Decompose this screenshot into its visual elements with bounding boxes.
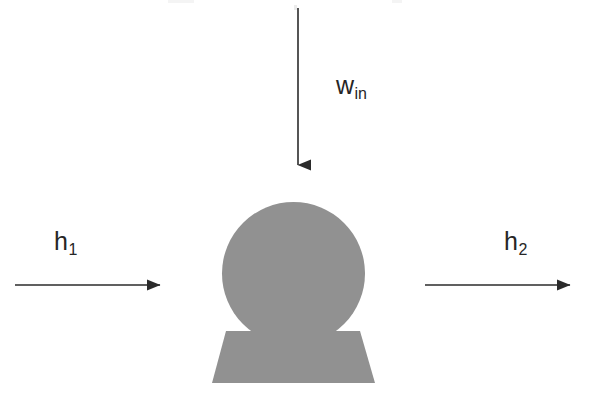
- work-input-label-subscript: in: [355, 85, 367, 102]
- compressor-circle: [222, 202, 365, 345]
- outlet-enthalpy-label-base: h: [504, 227, 518, 255]
- diagram-graphics: [0, 0, 595, 405]
- outlet-enthalpy-label: h2: [504, 229, 527, 254]
- outlet-enthalpy-label-subscript: 2: [518, 241, 527, 258]
- inlet-enthalpy-label: h1: [54, 229, 77, 254]
- inlet-enthalpy-label-base: h: [54, 227, 68, 255]
- inlet-enthalpy-label-subscript: 1: [68, 241, 77, 258]
- compressor-base: [212, 331, 375, 383]
- work-input-label-base: w: [336, 71, 354, 99]
- work-input-label: win: [336, 73, 367, 98]
- diagram-canvas: win h1 h2: [0, 0, 595, 405]
